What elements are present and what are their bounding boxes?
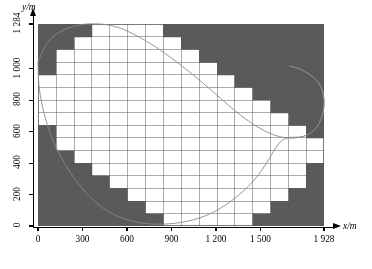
x-tick-label: 1 928 xyxy=(294,234,354,244)
x-axis-line xyxy=(33,227,335,228)
y-tick-mark xyxy=(29,100,34,101)
plot-area xyxy=(38,24,324,226)
x-tick-mark xyxy=(260,227,261,232)
x-tick-mark xyxy=(323,227,324,232)
y-tick-mark xyxy=(29,131,34,132)
x-axis-arrow-icon xyxy=(333,223,341,229)
y-axis-line xyxy=(33,14,34,228)
x-tick-mark xyxy=(171,227,172,232)
boundary-curve-layer xyxy=(38,24,324,226)
x-tick-mark xyxy=(37,227,38,232)
x-tick-mark xyxy=(126,227,127,232)
domain-boundary-path xyxy=(38,24,324,224)
y-tick-label: 1 284 xyxy=(12,3,22,43)
x-tick-mark xyxy=(82,227,83,232)
y-tick-label: 1 000 xyxy=(12,48,22,88)
y-tick-mark xyxy=(29,163,34,164)
x-axis-caption: x/m xyxy=(343,221,357,231)
y-axis-caption: y/m xyxy=(22,2,36,12)
y-tick-mark xyxy=(29,68,34,69)
figure-container: y/m x/m 02004006008001 0001 284 03006009… xyxy=(0,0,372,269)
x-tick-label: 1 500 xyxy=(231,234,291,244)
y-tick-mark xyxy=(29,225,34,226)
y-tick-mark xyxy=(29,194,34,195)
x-tick-mark xyxy=(215,227,216,232)
y-tick-mark xyxy=(29,23,34,24)
